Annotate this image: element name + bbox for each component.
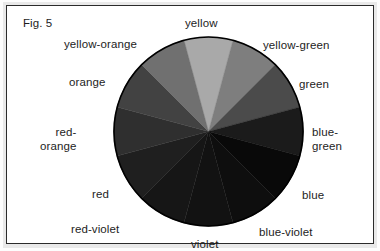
figure-screenshot: Fig. 5 yellow yellow-green green blue- g… [0, 0, 380, 251]
wheel-label-red-orange: red- orange [40, 126, 76, 153]
figure-frame: Fig. 5 yellow yellow-green green blue- g… [6, 5, 374, 244]
wheel-label-violet: violet [191, 238, 218, 251]
wheel-label-yellow: yellow [185, 17, 218, 31]
wheel-label-yellow-green: yellow-green [263, 39, 329, 53]
wheel-label-blue-violet: blue-violet [259, 226, 313, 240]
wheel-label-yellow-orange: yellow-orange [64, 38, 137, 52]
wheel-label-orange: orange [69, 76, 105, 90]
color-wheel [112, 35, 305, 228]
wheel-label-red: red [92, 188, 109, 202]
wheel-label-red-violet: red-violet [71, 223, 119, 237]
wheel-label-blue-green: blue- green [312, 126, 342, 153]
color-wheel-svg [112, 35, 305, 228]
figure-caption: Fig. 5 [23, 17, 52, 29]
wheel-label-blue: blue [302, 189, 324, 203]
wheel-label-green: green [299, 78, 329, 92]
